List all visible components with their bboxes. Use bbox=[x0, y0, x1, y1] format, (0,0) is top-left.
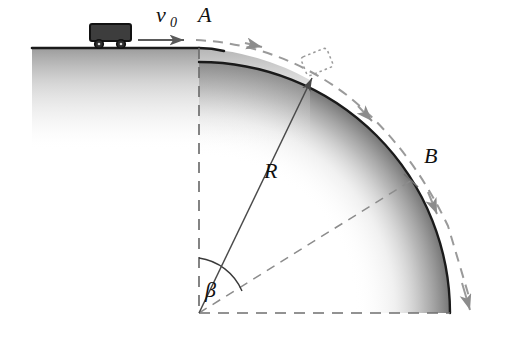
velocity-symbol: v bbox=[156, 2, 166, 27]
dotted-particle-outline bbox=[300, 47, 333, 76]
label-velocity: v 0 bbox=[156, 2, 177, 30]
label-point-a: A bbox=[196, 2, 212, 27]
label-radius: R bbox=[263, 158, 278, 183]
diagram-canvas: v 0 A B R β bbox=[0, 0, 510, 343]
physics-diagram: v 0 A B R β bbox=[0, 0, 510, 343]
label-angle-beta: β bbox=[204, 277, 216, 302]
ground-shading bbox=[32, 48, 199, 150]
label-point-b: B bbox=[424, 143, 437, 168]
velocity-subscript: 0 bbox=[170, 15, 177, 30]
cart-on-track bbox=[90, 24, 131, 48]
